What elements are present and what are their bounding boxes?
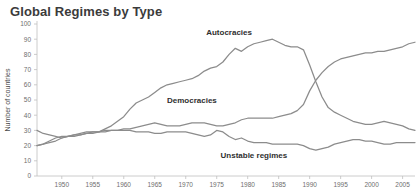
y-tick-label: 30 [24,127,32,134]
y-tick-label: 70 [24,66,32,73]
line-chart-plot: 1950195519601965197019751980198519901995… [0,0,419,194]
y-tick-label: 10 [24,157,32,164]
y-tick-label: 40 [24,112,32,119]
x-tick-label: 2000 [364,181,379,188]
x-tick-label: 1955 [86,181,101,188]
series-label-autocracies: Autocracies [206,28,252,37]
chart-series-lines [37,39,415,150]
y-tick-label: 100 [20,20,31,27]
y-tick-label: 20 [24,142,32,149]
y-axis-title-text: Number of countries [4,68,11,132]
series-line-democracies [37,42,415,138]
x-tick-label: 1990 [302,181,317,188]
x-tick-label: 1975 [209,181,224,188]
series-label-unstable-regimes: Unstable regimes [221,151,288,160]
x-tick-label: 1965 [148,181,163,188]
y-tick-label: 80 [24,51,32,58]
series-annotation-labels: AutocraciesDemocraciesUnstable regimes [167,28,288,160]
x-tick-label: 1995 [333,181,348,188]
x-tick-label: 1960 [117,181,132,188]
x-tick-label: 1950 [55,181,70,188]
x-tick-label: 1985 [271,181,286,188]
y-tick-label: 0 [27,172,31,179]
x-tick-label: 1970 [178,181,193,188]
y-tick-label: 50 [24,96,32,103]
y-axis-title: Number of countries [4,68,11,132]
y-tick-label: 60 [24,81,32,88]
x-tick-label: 2005 [395,181,410,188]
series-label-democracies: Democracies [167,96,217,105]
x-tick-label: 1980 [240,181,255,188]
y-axis-tick-labels: 0102030405060708090100 [20,20,31,179]
y-tick-label: 90 [24,36,32,43]
x-axis-tick-labels: 1950195519601965197019751980198519901995… [55,181,411,188]
chart-container: Global Regimes by Type 19501955196019651… [0,0,419,194]
